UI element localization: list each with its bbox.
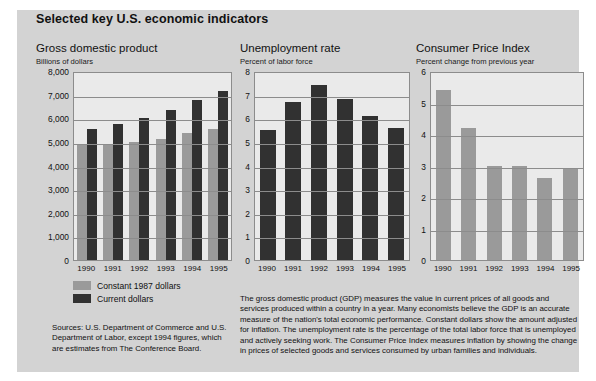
x-axis-tick-label: 1992 xyxy=(485,264,503,273)
bar xyxy=(182,133,192,260)
x-axis-tick-label: 1990 xyxy=(77,264,95,273)
gridline xyxy=(74,191,231,192)
y-axis-tick-label: 7 xyxy=(245,91,250,101)
plot-wrapper: 012345678 199019911992199319941995 xyxy=(240,72,410,279)
bar-group xyxy=(77,73,97,260)
x-axis-tick-label: 1995 xyxy=(562,264,580,273)
gridline xyxy=(74,215,231,216)
gridline xyxy=(431,168,583,169)
bar-group xyxy=(362,73,378,260)
bar-group-container xyxy=(74,73,231,260)
x-axis-tick-label: 1994 xyxy=(183,264,201,273)
x-axis-tick-label: 1991 xyxy=(460,264,478,273)
bar-group xyxy=(311,73,327,260)
x-axis-tick-label: 1993 xyxy=(511,264,529,273)
gridline xyxy=(431,231,583,232)
bar xyxy=(285,102,301,260)
y-axis-tick-label: 1,000 xyxy=(48,232,69,242)
y-axis-tick-label: 6 xyxy=(245,114,250,124)
gridline xyxy=(255,238,409,239)
bar xyxy=(537,178,552,260)
y-axis-labels: 012345678 xyxy=(240,72,250,261)
plot-wrapper: 01,0002,0003,0004,0005,0006,0007,0008,00… xyxy=(36,72,232,279)
legend-label: Constant 1987 dollars xyxy=(97,281,181,291)
x-axis-tick-label: 1991 xyxy=(104,264,122,273)
bar xyxy=(311,85,327,260)
plot-area xyxy=(254,72,410,261)
bar-group xyxy=(487,73,502,260)
y-axis-tick-label: 6,000 xyxy=(48,114,69,124)
bar xyxy=(487,166,502,261)
y-axis-labels: 0123456 xyxy=(416,72,426,261)
gridline xyxy=(74,238,231,239)
y-axis-tick-label: 2 xyxy=(245,209,250,219)
bar xyxy=(436,90,451,260)
legend-item: Constant 1987 dollars xyxy=(73,280,181,291)
bar xyxy=(156,139,166,260)
gridline xyxy=(74,120,231,121)
sources-note: Sources: U.S. Department of Commerce and… xyxy=(52,323,232,354)
y-axis-tick-label: 8 xyxy=(245,67,250,77)
y-axis-tick-label: 1 xyxy=(245,232,250,242)
bar-group xyxy=(156,73,176,260)
plot-area xyxy=(73,72,232,261)
legend-swatch-constant-dollars xyxy=(73,281,91,290)
gridline xyxy=(431,105,583,106)
bar-group-container xyxy=(431,73,583,260)
y-axis-tick-label: 6 xyxy=(421,67,426,77)
bar xyxy=(129,142,139,260)
gridline xyxy=(255,215,409,216)
x-axis-tick-label: 1990 xyxy=(434,264,452,273)
gridline xyxy=(255,120,409,121)
y-axis-tick-label: 0 xyxy=(421,256,426,266)
bar xyxy=(77,144,87,260)
bar-group xyxy=(512,73,527,260)
chart-subtitle: Percent of labor force xyxy=(240,56,410,67)
x-axis-tick-label: 1990 xyxy=(258,264,276,273)
gridline xyxy=(74,97,231,98)
bar-group xyxy=(337,73,353,260)
legend-item: Current dollars xyxy=(73,293,181,304)
bar-group xyxy=(208,73,228,260)
bar xyxy=(218,91,228,260)
x-axis-tick-label: 1995 xyxy=(210,264,228,273)
x-axis-tick-label: 1994 xyxy=(537,264,555,273)
x-axis-labels: 199019911992199319941995 xyxy=(430,264,584,273)
gridline xyxy=(74,168,231,169)
gridline xyxy=(255,144,409,145)
legend-swatch-current-dollars xyxy=(73,294,91,303)
y-axis-tick-label: 4 xyxy=(245,162,250,172)
x-axis-tick-label: 1995 xyxy=(388,264,406,273)
y-axis-tick-label: 4 xyxy=(421,130,426,140)
plot-wrapper: 0123456 199019911992199319941995 xyxy=(416,72,584,279)
bar xyxy=(388,128,404,260)
y-axis-tick-label: 2,000 xyxy=(48,209,69,219)
gridline xyxy=(431,199,583,200)
x-axis-tick-label: 1994 xyxy=(362,264,380,273)
y-axis-labels: 01,0002,0003,0004,0005,0006,0007,0008,00… xyxy=(36,72,69,261)
chart-legend: Constant 1987 dollars Current dollars xyxy=(73,280,181,306)
chart-consumer-price-index: Consumer Price Index Percent change from… xyxy=(416,42,584,279)
bar xyxy=(461,128,476,260)
y-axis-tick-label: 5 xyxy=(421,99,426,109)
x-axis-tick-label: 1991 xyxy=(284,264,302,273)
bar xyxy=(103,144,113,260)
x-axis-tick-label: 1992 xyxy=(130,264,148,273)
page-title: Selected key U.S. economic indicators xyxy=(36,12,268,26)
x-axis-labels: 199019911992199319941995 xyxy=(73,264,232,273)
bar-group xyxy=(285,73,301,260)
bar xyxy=(563,169,578,260)
y-axis-tick-label: 5 xyxy=(245,138,250,148)
y-axis-tick-label: 5,000 xyxy=(48,138,69,148)
figure-root: Selected key U.S. economic indicators Gr… xyxy=(0,0,596,381)
bar-group xyxy=(461,73,476,260)
bar-group xyxy=(182,73,202,260)
y-axis-tick-label: 4,000 xyxy=(48,162,69,172)
bar-group xyxy=(563,73,578,260)
chart-gross-domestic-product: Gross domestic product Billions of dolla… xyxy=(36,42,232,279)
bar-group-container xyxy=(255,73,409,260)
gridline xyxy=(255,191,409,192)
gridline xyxy=(74,144,231,145)
bar-group xyxy=(260,73,276,260)
chart-subtitle: Percent change from previous year xyxy=(416,56,584,67)
